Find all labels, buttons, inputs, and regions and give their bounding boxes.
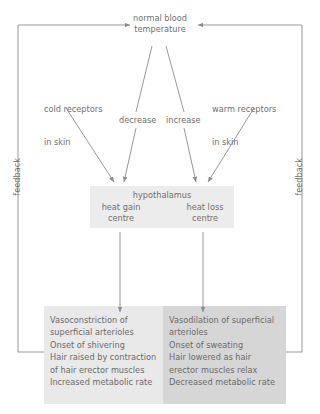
- feedback-label-right: feedback: [294, 158, 304, 196]
- decrease-to-heat-gain-arrow: [124, 128, 136, 182]
- warm-receptors-line2: in skin: [212, 137, 276, 148]
- title-to-increase-line: [166, 46, 184, 112]
- effect-line: Onset of sweating: [169, 339, 286, 351]
- warm-receptors-line1: warm receptors: [212, 104, 276, 115]
- feedback-label-left: feedback: [12, 158, 22, 196]
- normal-blood-temperature-line1: normal blood: [110, 13, 210, 24]
- effect-line: arterioles: [169, 326, 286, 338]
- effect-line: Increased metabolic rate: [50, 376, 163, 388]
- effect-line: Decreased metabolic rate: [169, 376, 286, 388]
- normal-blood-temperature-node: normal blood temperature: [110, 13, 210, 35]
- heat-loss-centre-line2: centre: [172, 213, 238, 224]
- cold-receptors-line2: in skin: [44, 137, 102, 148]
- effect-line: Onset of shivering: [50, 339, 163, 351]
- normal-blood-temperature-line2: temperature: [110, 24, 210, 35]
- heat-gain-effects-text: Vasoconstriction of superficial arteriol…: [50, 314, 163, 388]
- effect-line: of hair erector muscles: [50, 364, 163, 376]
- hypothalamus-title: hypothalamus: [122, 190, 202, 201]
- effect-line: superficial arterioles: [50, 326, 163, 338]
- decrease-label: decrease: [119, 115, 156, 126]
- heat-gain-centre-line1: heat gain: [88, 202, 154, 213]
- effect-line: Hair raised by contraction: [50, 351, 163, 363]
- heat-gain-centre-line2: centre: [88, 213, 154, 224]
- heat-loss-effects-text: Vasodilation of superficial arterioles O…: [169, 314, 286, 388]
- warm-receptors-label: warm receptors in skin: [212, 82, 276, 159]
- increase-label: increase: [166, 115, 201, 126]
- effect-line: Vasodilation of superficial: [169, 314, 286, 326]
- cold-receptors-label: cold receptors in skin: [44, 82, 102, 159]
- effect-line: Hair lowered as hair: [169, 351, 286, 363]
- effect-line: Vasoconstriction of: [50, 314, 163, 326]
- heat-loss-centre-line1: heat loss: [172, 202, 238, 213]
- heat-loss-centre-label: heat loss centre: [172, 202, 238, 224]
- increase-to-heat-loss-arrow: [184, 128, 196, 182]
- effect-line: erector muscles relax: [169, 364, 286, 376]
- heat-gain-centre-label: heat gain centre: [88, 202, 154, 224]
- cold-receptors-line1: cold receptors: [44, 104, 102, 115]
- title-to-decrease-line: [136, 46, 152, 112]
